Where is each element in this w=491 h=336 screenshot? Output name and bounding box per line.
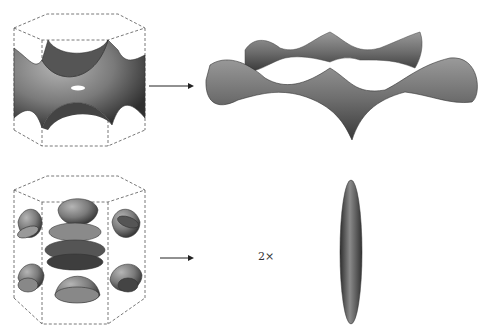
bottom-arrow: [160, 255, 194, 261]
ellipsoid-cigar: [340, 180, 362, 324]
bottom-hex-prism: [14, 176, 145, 324]
corrugated-ring: [206, 32, 477, 140]
multiplier-label: 2×: [258, 250, 274, 263]
top-arrow: [149, 83, 194, 89]
diagram-canvas: [0, 0, 491, 336]
top-hex-prism: [14, 14, 145, 146]
